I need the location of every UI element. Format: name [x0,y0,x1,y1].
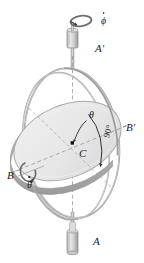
label-rate-theta-dot: θ [27,180,32,190]
phi-symbol: ϕ [101,15,106,26]
precession-arrow [70,14,92,27]
phi-dot-accent [103,12,105,14]
gyroscope-figure: A A' B B' C θ 90° ϕ θ [0,0,144,263]
bottom-bearing [67,222,78,255]
label-axis-b: B [7,170,14,181]
label-axis-b-prime: B' [126,122,135,133]
label-bearing-a: A [93,236,100,247]
label-center-c: C [79,148,86,159]
rotor-disk [2,86,133,196]
label-bearing-a-prime: A' [95,43,104,54]
theta-symbol: θ [27,179,32,190]
theta-dot-accent [29,176,31,178]
label-angle-theta: θ [89,110,94,120]
figure-canvas [0,0,144,263]
label-rate-phi-dot: ϕ [101,16,106,26]
center-point-marker [71,141,74,144]
